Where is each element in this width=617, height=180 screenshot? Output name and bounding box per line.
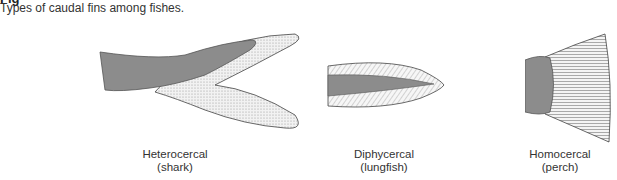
fin-example: (lungfish): [334, 161, 434, 174]
heterocercal-label: Heterocercal (shark): [125, 148, 225, 174]
fin-example: (shark): [125, 161, 225, 174]
fin-type-name: Homocercal: [510, 148, 610, 161]
fin-example: (perch): [510, 161, 610, 174]
figure-caption: Types of caudal fins among fishes.: [0, 1, 184, 15]
fin-type-name: Heterocercal: [125, 148, 225, 161]
heterocercal-fin-illustration: [95, 30, 305, 135]
homocercal-fin-illustration: [525, 32, 617, 144]
homocercal-label: Homocercal (perch): [510, 148, 610, 174]
diphycercal-fin-illustration: [326, 58, 446, 112]
diphycercal-label: Diphycercal (lungfish): [334, 148, 434, 174]
fin-type-name: Diphycercal: [334, 148, 434, 161]
